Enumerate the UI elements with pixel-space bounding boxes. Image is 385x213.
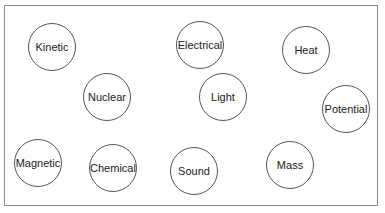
- bubble-label: Mass: [277, 159, 303, 171]
- bubble-label: Potential: [325, 103, 368, 115]
- bubble-label: Light: [211, 91, 235, 103]
- bubble-magnetic: Magnetic: [14, 139, 62, 187]
- bubble-sound: Sound: [170, 147, 218, 195]
- bubble-nuclear: Nuclear: [83, 73, 131, 121]
- bubble-light: Light: [199, 73, 247, 121]
- bubble-label: Magnetic: [16, 157, 61, 169]
- bubble-kinetic: Kinetic: [28, 23, 76, 71]
- bubble-electrical: Electrical: [176, 21, 224, 69]
- bubble-label: Chemical: [90, 162, 136, 174]
- bubble-chemical: Chemical: [89, 144, 137, 192]
- bubble-heat: Heat: [282, 26, 330, 74]
- bubble-potential: Potential: [322, 85, 370, 133]
- bubble-label: Heat: [294, 44, 317, 56]
- bubble-mass: Mass: [266, 141, 314, 189]
- bubble-label: Kinetic: [35, 41, 68, 53]
- bubble-label: Electrical: [178, 39, 223, 51]
- bubble-label: Sound: [178, 165, 210, 177]
- bubble-label: Nuclear: [88, 91, 126, 103]
